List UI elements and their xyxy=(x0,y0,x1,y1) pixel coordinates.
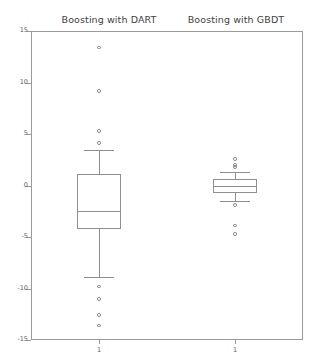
median-line xyxy=(77,211,121,212)
y-tick-label: 10 xyxy=(20,78,28,86)
panel-title-dart: Boosting with DART xyxy=(38,14,180,25)
outlier-point xyxy=(233,232,237,236)
y-tick-label: -5 xyxy=(22,232,28,240)
outlier-point xyxy=(97,324,101,328)
x-tick-mark xyxy=(99,340,100,344)
cap-lower xyxy=(84,277,114,278)
outlier-point xyxy=(97,46,101,50)
whisker-upper xyxy=(235,172,236,179)
outlier-point xyxy=(97,313,101,317)
outlier-point xyxy=(97,285,101,289)
whisker-lower xyxy=(99,229,100,277)
panel-title-gbdt: Boosting with GBDT xyxy=(165,14,307,25)
outlier-point xyxy=(233,224,237,228)
outlier-point xyxy=(233,165,237,169)
outlier-point xyxy=(97,141,101,145)
plot-area: 151050-5-10-15 11 xyxy=(31,31,303,340)
outlier-point xyxy=(233,203,237,207)
y-tick-label: 0 xyxy=(24,181,28,189)
median-line xyxy=(213,186,257,187)
cap-upper xyxy=(84,150,114,151)
whisker-lower xyxy=(235,193,236,201)
whisker-upper xyxy=(99,150,100,174)
cap-lower xyxy=(220,201,250,202)
x-tick-label: 1 xyxy=(89,346,109,354)
x-tick-label: 1 xyxy=(225,346,245,354)
y-tick-label: -10 xyxy=(17,284,28,292)
y-tick-label: 15 xyxy=(20,26,28,34)
x-tick-mark xyxy=(235,340,236,344)
boxplot-figure: Boosting with DART Boosting with GBDT 15… xyxy=(0,0,317,364)
y-tick-label: -15 xyxy=(17,335,28,343)
cap-upper xyxy=(220,172,250,173)
y-tick-label: 5 xyxy=(24,129,28,137)
outlier-point xyxy=(97,129,101,133)
outlier-point xyxy=(233,157,237,161)
box-iqr xyxy=(77,174,121,229)
outlier-point xyxy=(97,89,101,93)
outlier-point xyxy=(97,297,101,301)
